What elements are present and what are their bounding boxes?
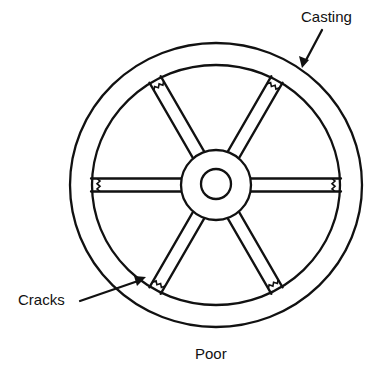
hub [181,150,251,220]
cracks-arrow [80,276,146,301]
cracks-label: Cracks [18,292,65,307]
crack-mark [154,81,164,90]
crack-mark [268,280,278,289]
casting-arrow [299,30,322,68]
spoke [249,179,341,192]
spoke [91,179,183,192]
figure-caption: Poor [195,346,227,361]
spoke [149,76,205,160]
spoke [227,76,283,160]
spoke [149,210,205,294]
cast-wheel-diagram [0,0,389,378]
crack-mark [152,281,165,288]
casting-label: Casting [301,9,352,24]
crack-mark [267,83,280,90]
crack-mark [332,179,335,192]
crack-mark [97,179,100,192]
spoke [227,210,283,294]
